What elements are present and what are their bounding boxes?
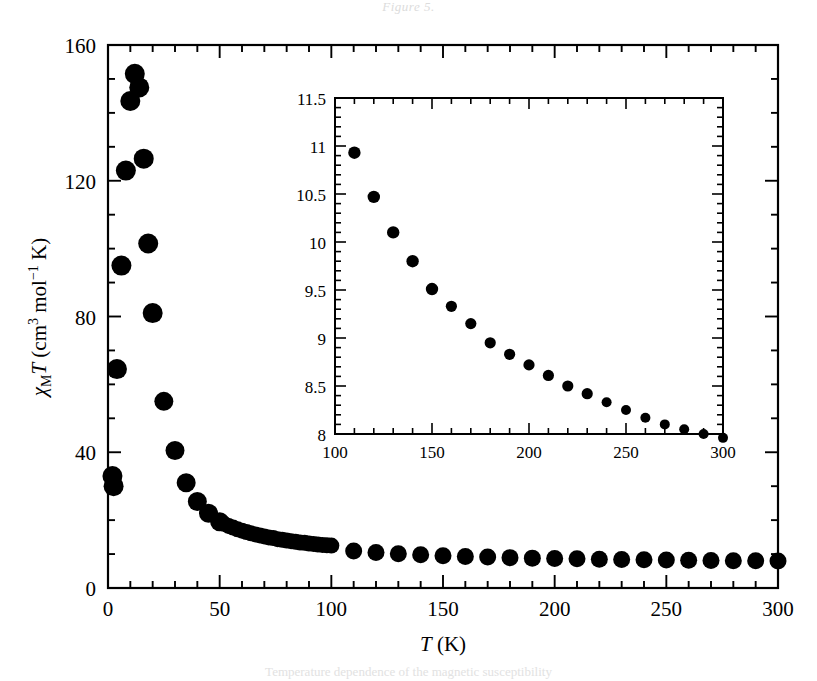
y-tick-label: 11 bbox=[310, 138, 326, 157]
main-xaxis-title: T (K) bbox=[420, 632, 466, 656]
y-tick-label: 120 bbox=[65, 170, 97, 194]
data-point bbox=[435, 547, 452, 564]
data-point bbox=[116, 161, 136, 181]
y-tick-label: 80 bbox=[75, 306, 96, 330]
data-point bbox=[368, 544, 385, 561]
y-tick-label: 10 bbox=[309, 234, 326, 253]
data-point bbox=[154, 392, 173, 411]
data-point bbox=[111, 256, 131, 276]
data-point bbox=[465, 318, 476, 329]
svg-text:χMT (cm3 mol−1 K): χMT (cm3 mol−1 K) bbox=[26, 238, 54, 399]
data-point bbox=[747, 552, 764, 569]
data-point bbox=[602, 397, 612, 407]
data-point bbox=[523, 359, 534, 370]
data-point bbox=[138, 234, 158, 254]
data-point bbox=[104, 476, 124, 496]
x-tick-label: 150 bbox=[419, 443, 445, 462]
data-point bbox=[658, 552, 675, 569]
y-tick-label: 9.5 bbox=[305, 282, 326, 301]
data-point bbox=[166, 441, 185, 460]
data-point bbox=[323, 538, 339, 554]
data-point bbox=[770, 553, 787, 570]
data-point bbox=[502, 549, 519, 566]
data-point bbox=[591, 551, 608, 568]
data-point bbox=[636, 551, 653, 568]
main-xaxis-tick-labels: 050100150200250300 bbox=[103, 597, 794, 621]
data-point bbox=[485, 337, 496, 348]
x-tick-label: 300 bbox=[710, 443, 736, 462]
data-point bbox=[621, 405, 631, 415]
x-tick-label: 0 bbox=[103, 597, 114, 621]
x-tick-label: 200 bbox=[516, 443, 542, 462]
x-tick-label: 100 bbox=[322, 443, 348, 462]
y-tick-label: 11.5 bbox=[297, 90, 326, 109]
data-point bbox=[457, 548, 474, 565]
inset-xaxis-tick-labels: 100150200250300 bbox=[322, 443, 736, 462]
x-tick-label: 100 bbox=[316, 597, 348, 621]
data-point bbox=[348, 147, 360, 159]
y-tick-label: 40 bbox=[75, 441, 96, 465]
x-tick-label: 200 bbox=[539, 597, 571, 621]
y-tick-label: 10.5 bbox=[296, 186, 326, 205]
data-point bbox=[582, 388, 593, 399]
chart-canvas: 050100150200250300 04080120160 T (K) χMT… bbox=[0, 0, 817, 681]
inset-yaxis-tick-labels: 88.599.51010.51111.5 bbox=[296, 90, 326, 445]
data-point bbox=[680, 552, 697, 569]
data-point bbox=[703, 552, 720, 569]
data-point bbox=[725, 552, 742, 569]
x-tick-label: 150 bbox=[427, 597, 459, 621]
data-point bbox=[387, 226, 399, 238]
inset-background bbox=[335, 98, 723, 434]
data-point bbox=[569, 550, 586, 567]
data-point bbox=[412, 546, 429, 563]
y-tick-label: 8.5 bbox=[305, 378, 326, 397]
main-yaxis-tick-labels: 04080120160 bbox=[65, 34, 97, 601]
x-tick-label: 250 bbox=[613, 443, 639, 462]
data-point bbox=[345, 543, 362, 560]
data-point bbox=[562, 380, 573, 391]
data-point bbox=[143, 303, 163, 323]
figure-bottom-caption: Temperature dependence of the magnetic s… bbox=[0, 664, 817, 680]
data-point bbox=[504, 349, 515, 360]
data-point bbox=[660, 419, 670, 429]
data-point bbox=[613, 551, 630, 568]
svg-text:T (K): T (K) bbox=[420, 632, 466, 656]
data-point bbox=[524, 550, 541, 567]
data-point bbox=[640, 413, 650, 423]
data-point bbox=[699, 429, 709, 439]
inset-plot: 100150200250300 88.599.51010.51111.5 bbox=[296, 90, 736, 462]
data-point bbox=[679, 424, 689, 434]
data-point bbox=[134, 149, 154, 169]
x-tick-label: 300 bbox=[762, 597, 794, 621]
y-tick-label: 0 bbox=[86, 577, 97, 601]
data-point bbox=[426, 283, 438, 295]
data-point bbox=[446, 301, 457, 312]
data-point bbox=[718, 433, 728, 443]
x-tick-label: 50 bbox=[209, 597, 230, 621]
data-point bbox=[479, 548, 496, 565]
data-point bbox=[546, 550, 563, 567]
data-point bbox=[129, 77, 149, 97]
figure-container: Figure 5. 050100150200250300 04080120160… bbox=[0, 0, 817, 681]
data-point bbox=[406, 255, 418, 267]
x-tick-label: 250 bbox=[651, 597, 683, 621]
data-point bbox=[177, 473, 196, 492]
data-point bbox=[107, 359, 127, 379]
y-tick-label: 160 bbox=[65, 34, 97, 58]
y-tick-label: 9 bbox=[318, 330, 327, 349]
data-point bbox=[368, 191, 380, 203]
y-tick-label: 8 bbox=[318, 426, 327, 445]
figure-top-caption: Figure 5. bbox=[0, 0, 817, 15]
data-point bbox=[390, 545, 407, 562]
main-yaxis-title: χMT (cm3 mol−1 K) bbox=[26, 238, 54, 399]
data-point bbox=[543, 370, 554, 381]
